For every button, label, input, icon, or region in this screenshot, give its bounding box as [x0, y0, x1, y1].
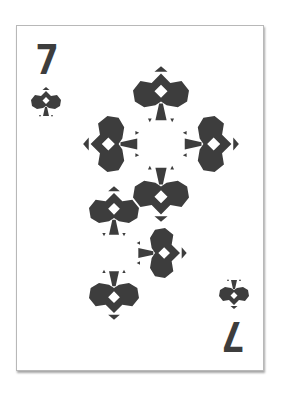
spade-icon-bottom-left [89, 266, 139, 320]
playing-card[interactable]: 7 7 [16, 25, 264, 371]
spade-icon-lower-middle-right [133, 228, 187, 278]
spade-icon-corner-top [31, 86, 61, 120]
rank-top-left: 7 [35, 40, 59, 80]
spade-icon-cross-bottom [133, 162, 189, 222]
rank-bottom-right: 7 [221, 316, 245, 356]
spade-icon-lower-left [89, 186, 139, 240]
spade-icon-corner-bottom [219, 276, 249, 310]
